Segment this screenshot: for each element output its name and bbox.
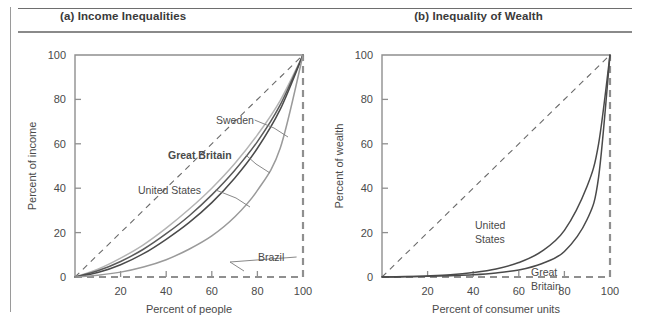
panel-b-title: (b) Inequality of Wealth — [325, 10, 632, 23]
curve-label-sweden: Sweden — [216, 114, 254, 126]
curve-label-brazil: Brazil — [258, 251, 284, 263]
x-tick-label: 100 — [294, 285, 312, 297]
panel-inequality-of-wealth: (b) Inequality of Wealth 020406080100204… — [325, 0, 632, 315]
x-tick-label: 60 — [513, 285, 525, 297]
y-tick-label: 80 — [54, 93, 66, 105]
curve-label-united-states: United States — [138, 184, 201, 196]
curve-label-states: States — [475, 233, 505, 245]
y-tick-label: 20 — [361, 227, 373, 239]
y-tick-label: 100 — [355, 49, 373, 61]
y-tick-label: 0 — [367, 271, 373, 283]
x-tick-label: 20 — [114, 285, 126, 297]
x-tick-label: 100 — [601, 285, 619, 297]
y-tick-label: 60 — [54, 138, 66, 150]
y-tick-label: 0 — [60, 271, 66, 283]
x-tick-label: 80 — [251, 285, 263, 297]
panel-a-title: (a) Income Inequalities — [18, 10, 325, 23]
figure-left-rule — [10, 7, 11, 312]
equality-reference-line — [75, 55, 303, 277]
y-tick-label: 40 — [361, 182, 373, 194]
curve-label-britain: Britain — [531, 280, 561, 292]
y-axis-title: Percent of wealth — [333, 124, 345, 209]
lorenz-curve-figure: (a) Income Inequalities 0204060801002040… — [0, 0, 650, 315]
y-tick-label: 100 — [48, 49, 66, 61]
curve-label-great: Great — [531, 266, 557, 278]
income-lorenz-chart: 02040608010020406080100Percent of people… — [18, 33, 325, 315]
x-tick-label: 40 — [467, 285, 479, 297]
curve-label-united: United — [475, 219, 506, 231]
curve-label-great-britain: Great Britain — [168, 149, 232, 161]
x-axis-title: Percent of consumer units — [432, 303, 560, 315]
panel-income-inequalities: (a) Income Inequalities 0204060801002040… — [18, 0, 325, 315]
y-tick-label: 40 — [54, 182, 66, 194]
panel-a-plot: 02040608010020406080100Percent of people… — [18, 33, 325, 315]
annotation-leader-line — [255, 120, 288, 137]
panel-b-plot: 02040608010020406080100Percent of consum… — [325, 33, 632, 315]
y-tick-label: 20 — [54, 227, 66, 239]
y-tick-label: 80 — [361, 93, 373, 105]
wealth-lorenz-chart: 02040608010020406080100Percent of consum… — [325, 33, 632, 315]
y-axis-title: Percent of income — [26, 122, 38, 211]
annotation-leader-line — [246, 155, 270, 173]
x-tick-label: 40 — [160, 285, 172, 297]
x-tick-label: 20 — [421, 285, 433, 297]
y-tick-label: 60 — [361, 138, 373, 150]
x-tick-label: 60 — [206, 285, 218, 297]
x-axis-title: Percent of people — [146, 303, 232, 315]
